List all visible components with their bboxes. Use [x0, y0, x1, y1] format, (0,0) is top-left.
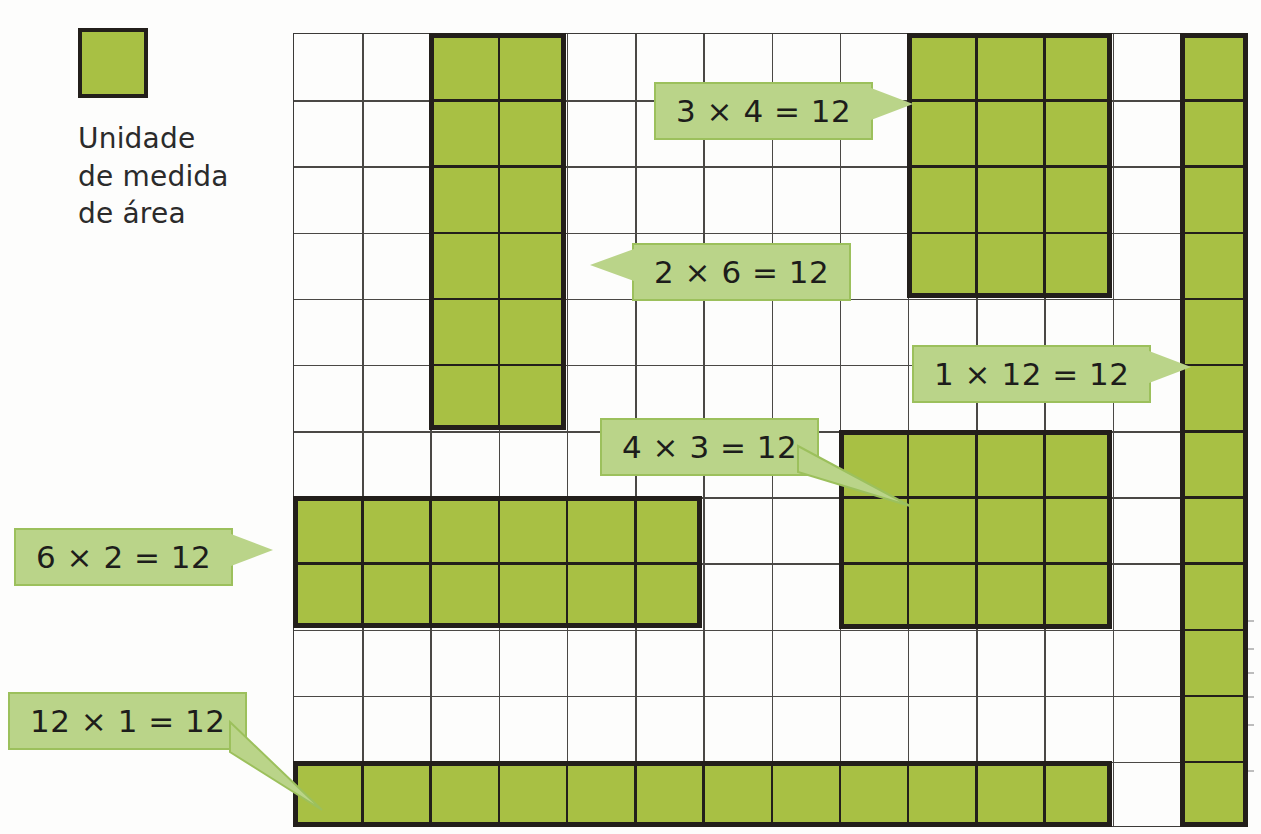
unit-cell-divider — [912, 232, 1107, 235]
unit-cell-divider — [912, 165, 1107, 168]
legend: Unidade de medida de área — [78, 28, 268, 233]
callout-1x12: 1 × 12 = 12 — [912, 345, 1151, 403]
unit-cell-divider — [1185, 761, 1243, 764]
unit-cell-divider — [1185, 165, 1243, 168]
unit-cell-divider — [844, 562, 1107, 565]
area-rectangle-12x1 — [293, 761, 1112, 827]
unit-cell-divider — [434, 364, 560, 367]
unit-cell-divider — [1043, 435, 1046, 624]
callout-label: 3 × 4 = 12 — [654, 82, 873, 140]
unit-cell-divider — [1185, 629, 1243, 632]
unit-cell-divider — [434, 99, 560, 102]
grid-line-vertical — [362, 34, 364, 826]
unit-cell-divider — [1185, 695, 1243, 698]
grid-line-vertical — [567, 34, 569, 826]
unit-cell-divider — [1185, 298, 1243, 301]
unit-cell-divider — [1185, 430, 1243, 433]
callout-2x6: 2 × 6 = 12 — [632, 243, 851, 301]
unit-cell-divider — [498, 766, 501, 822]
callout-pointer-icon — [1149, 351, 1191, 383]
callout-label: 4 × 3 = 12 — [600, 418, 819, 476]
unit-cell-divider — [975, 766, 978, 822]
callout-label: 2 × 6 = 12 — [632, 243, 851, 301]
area-rectangle-6x2 — [293, 496, 702, 628]
unit-cell-divider — [907, 766, 910, 822]
unit-cell-divider — [1185, 99, 1243, 102]
legend-caption: Unidade de medida de área — [78, 120, 268, 233]
unit-cell-divider — [1185, 562, 1243, 565]
unit-cell-divider — [912, 99, 1107, 102]
area-rectangle-2x6 — [429, 33, 565, 430]
callout-6x2: 6 × 2 = 12 — [14, 528, 233, 586]
callout-label: 12 × 1 = 12 — [8, 692, 247, 750]
callout-4x3: 4 × 3 = 12 — [600, 418, 819, 476]
callout-label: 6 × 2 = 12 — [14, 528, 233, 586]
callout-pointer-icon — [590, 249, 634, 281]
unit-cell-divider — [434, 232, 560, 235]
unit-cell-divider — [702, 766, 705, 822]
callout-pointer-icon — [230, 722, 350, 832]
unit-cell-divider — [361, 766, 364, 822]
unit-cell-divider — [434, 298, 560, 301]
callout-pointer-icon — [231, 534, 273, 566]
unit-cell-divider — [634, 766, 637, 822]
unit-cell-divider — [298, 562, 697, 565]
unit-cell-divider — [566, 766, 569, 822]
unit-cell-divider — [1185, 364, 1243, 367]
grid-line-horizontal — [294, 696, 1247, 698]
unit-cell-divider — [429, 766, 432, 822]
unit-cell-divider — [434, 165, 560, 168]
area-rectangle-3x4 — [907, 33, 1112, 298]
grid-line-vertical — [1113, 34, 1115, 826]
unit-cell-divider — [1185, 232, 1243, 235]
area-rectangle-1x12 — [1180, 33, 1248, 827]
unit-cell-divider — [1185, 496, 1243, 499]
callout-3x4: 3 × 4 = 12 — [654, 82, 873, 140]
grid-line-horizontal — [294, 630, 1247, 632]
unit-cell-divider — [771, 766, 774, 822]
unit-square-swatch — [78, 28, 148, 98]
callout-label: 1 × 12 = 12 — [912, 345, 1151, 403]
unit-cell-divider — [975, 435, 978, 624]
callout-pointer-icon — [798, 446, 918, 526]
unit-cell-divider — [1043, 766, 1046, 822]
unit-cell-divider — [839, 766, 842, 822]
callout-pointer-icon — [871, 88, 913, 120]
callout-12x1: 12 × 1 = 12 — [8, 692, 247, 750]
